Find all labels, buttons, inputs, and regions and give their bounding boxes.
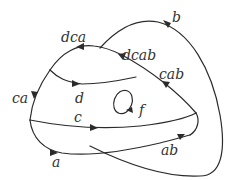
label-ab: ab xyxy=(161,143,178,157)
label-cab: cab xyxy=(159,67,184,81)
edge-dcab-cab xyxy=(122,55,196,113)
diagram-svg xyxy=(0,0,232,180)
label-f: f xyxy=(139,103,144,117)
edge-dca xyxy=(50,46,122,70)
edge-c xyxy=(30,113,196,128)
label-a: a xyxy=(52,155,60,169)
arrow-ca-icon xyxy=(31,91,38,99)
diagram-canvas: b dca dcab cab ca d f c a ab xyxy=(0,0,232,180)
label-dcab: dcab xyxy=(122,48,156,62)
label-d: d xyxy=(75,91,84,105)
label-b: b xyxy=(172,10,181,24)
label-c: c xyxy=(74,110,82,124)
edge-right-turn xyxy=(190,113,198,135)
edge-d xyxy=(50,70,136,84)
edge-b xyxy=(90,21,223,176)
arrow-c-icon xyxy=(90,124,98,131)
arrow-d-icon xyxy=(72,80,80,87)
label-ca: ca xyxy=(12,91,28,105)
label-dca: dca xyxy=(61,30,86,44)
